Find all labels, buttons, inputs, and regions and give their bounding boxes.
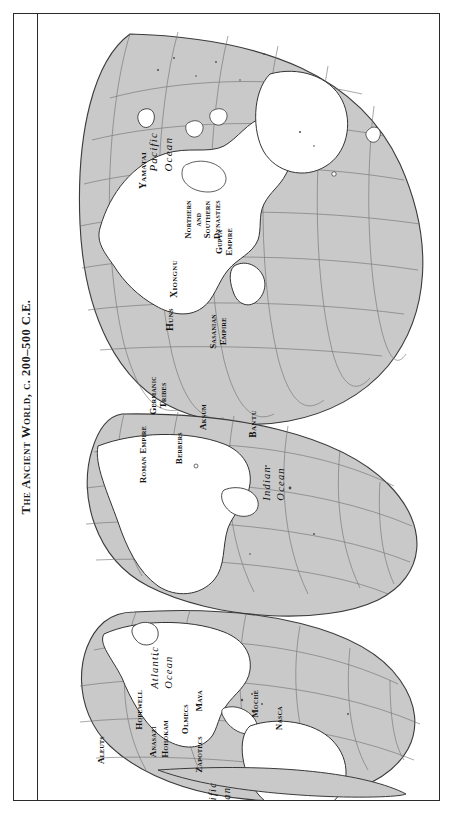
region-label-aleuts: Aleuts [96, 736, 106, 764]
region-label-yamatai: Yamatai [138, 152, 148, 189]
region-label-hopewell: Hopewell [134, 690, 144, 730]
region-label-olmecs: Olmecs [180, 704, 190, 734]
region-label-germanic-tribes: Germanic Tribes [148, 376, 169, 415]
region-label-xiongnu: Xiongnu [168, 260, 179, 298]
region-label-sasanian-empire: Sasanian Empire [208, 314, 229, 349]
ocean-label-pacific-east: Pacific Ocean [206, 782, 234, 800]
region-label-hohokam: Hohokam [160, 720, 170, 758]
region-label-roman-empire: Roman Empire [138, 426, 148, 483]
ocean-label-indian: Indian Ocean [260, 466, 288, 501]
region-label-maya: Maya [194, 690, 204, 712]
page-title: The Ancient World, c. 200–500 C.E. [18, 300, 33, 515]
map-labels: Pacific Ocean Indian Ocean Atlantic Ocea… [38, 14, 439, 800]
region-label-aksum: Aksum [198, 404, 208, 430]
region-label-berbers: Berbers [174, 432, 184, 464]
title-strip: The Ancient World, c. 200–500 C.E. [14, 14, 37, 800]
map-plate: Pacific Ocean Indian Ocean Atlantic Ocea… [38, 14, 439, 800]
region-label-huns: Huns [164, 308, 175, 331]
region-label-nasca: Nasca [274, 706, 284, 730]
atlas-page: The Ancient World, c. 200–500 C.E. [0, 0, 453, 826]
ocean-label-atlantic: Atlantic Ocean [148, 646, 176, 689]
region-label-zapotecs: Zapotecs [194, 736, 204, 773]
region-label-gupta-empire: Gupta Empire [214, 228, 235, 256]
region-label-moche: Moche [250, 690, 260, 718]
region-label-bantu: Bantu [248, 410, 258, 438]
ocean-label-pacific-west: Pacific Ocean [146, 132, 176, 172]
region-label-anasazi: Anasazi [148, 726, 158, 757]
